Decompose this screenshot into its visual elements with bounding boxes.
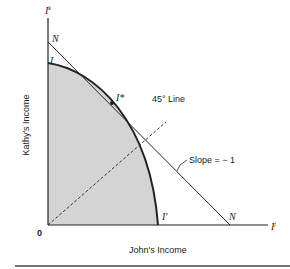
label-slope: Slope = − 1 (189, 155, 235, 165)
x-axis-label: John's Income (129, 245, 187, 255)
y-axis-symbol: Ik (45, 5, 51, 16)
label-i-prime: I' (162, 211, 167, 222)
x-axis-symbol: Ij (271, 221, 276, 232)
label-45-line: 45° Line (152, 94, 185, 104)
utility-possibility-diagram (0, 0, 290, 269)
label-n-top: N (52, 33, 59, 44)
origin-label: 0 (37, 228, 42, 238)
label-i-star: I* (116, 92, 124, 103)
label-n-right: N (229, 211, 236, 222)
y-axis-label: Kathy's Income (21, 85, 31, 165)
label-i-top: I (50, 55, 53, 66)
slope-pointer (177, 160, 187, 171)
i-star-point (110, 101, 114, 105)
feasible-region (48, 63, 158, 225)
